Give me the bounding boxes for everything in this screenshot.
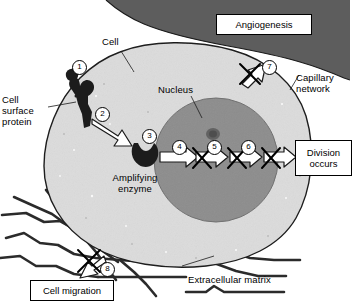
label-cell-surface-protein: Cell surface protein [2,94,34,127]
box-cell-migration: Cell migration [30,280,114,301]
step-marker-5: 5 [207,140,222,155]
label-capillary-network: Capillary network [296,72,334,94]
box-division-occurs: Division occurs [295,140,352,176]
step-marker-2: 2 [95,107,110,122]
step-marker-6: 6 [241,140,256,155]
label-nucleus: Nucleus [158,84,193,95]
step-marker-3: 3 [142,129,157,144]
step-marker-4: 4 [172,140,187,155]
step-marker-8: 8 [100,262,115,277]
label-cell: Cell [102,36,119,47]
label-extracellular-matrix: Extracellular matrix [188,274,271,285]
label-amplifying-enzyme: Amplifying enzyme [104,172,166,194]
step-marker-7: 7 [262,60,277,75]
step-marker-1: 1 [72,60,87,75]
box-angiogenesis: Angiogenesis [216,14,312,35]
